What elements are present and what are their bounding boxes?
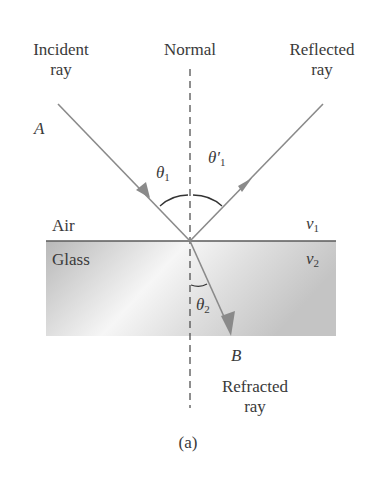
normal-label-text: Normal <box>164 40 216 59</box>
air-label: Air <box>52 216 75 236</box>
glass-label: Glass <box>52 250 90 270</box>
v2-sub: 2 <box>314 257 320 269</box>
v1-symbol: v <box>306 214 314 233</box>
theta2-sub: 2 <box>204 303 210 315</box>
reflected-label-line2: ray <box>272 60 372 80</box>
incident-label-line1: Incident <box>16 40 106 60</box>
figure-caption: (a) <box>168 433 208 453</box>
reflected-ray-label: Reflected ray <box>272 40 372 80</box>
theta1-prime-label: θ′1 <box>208 148 226 172</box>
theta1-prime-symbol: θ′ <box>208 148 220 167</box>
incident-ray <box>58 104 190 241</box>
theta1-sub: 1 <box>164 171 170 183</box>
v2-label: v2 <box>306 249 319 273</box>
theta1-arc <box>160 195 188 206</box>
incident-ray-label: Incident ray <box>16 40 106 80</box>
v2-symbol: v <box>306 249 314 268</box>
theta2-label: θ2 <box>196 295 210 319</box>
reflected-label-line1: Reflected <box>272 40 372 60</box>
incident-arrowhead-icon <box>136 182 150 198</box>
theta1-label: θ1 <box>156 163 170 187</box>
incident-label-line2: ray <box>16 60 106 80</box>
point-b-label: B <box>231 346 241 366</box>
normal-label: Normal <box>148 40 232 60</box>
point-a-label: A <box>34 119 44 139</box>
theta1-prime-arc <box>193 195 222 206</box>
refracted-label-line2: ray <box>210 397 300 417</box>
v1-sub: 1 <box>314 222 320 234</box>
theta1-prime-sub: 1 <box>220 156 226 168</box>
v1-label: v1 <box>306 214 319 238</box>
refracted-label-line1: Refracted <box>210 377 300 397</box>
reflected-ray <box>190 104 323 241</box>
refracted-ray-label: Refracted ray <box>210 377 300 417</box>
